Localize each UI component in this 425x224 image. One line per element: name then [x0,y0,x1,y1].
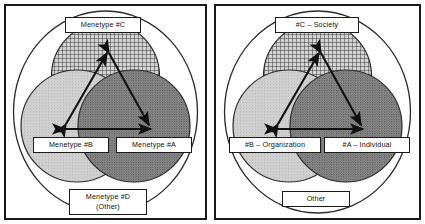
label-menetype-c: Menetype #C [65,17,141,33]
panel-right-named-menetypes: #C – Society #B – Organization #A – Indi… [214,4,421,220]
label-menetype-d-line1: Menetype #D [73,192,143,202]
label-menetype-b: Menetype #B [33,137,109,153]
label-menetype-d-line2: (Other) [73,202,143,212]
label-c-society: #C – Society [275,17,359,33]
label-menetype-a: Menetype #A [116,137,192,153]
diagram-root: Menetype #C Menetype #B Menetype #A Mene… [0,0,425,224]
circle-menetype-a [78,70,190,182]
circle-individual-a [290,70,402,182]
left-panel-graphic [6,6,205,218]
label-b-organization: #B – Organization [229,137,321,153]
right-panel-graphic [216,6,419,218]
panel-left-generic-menetypes: Menetype #C Menetype #B Menetype #A Mene… [4,4,207,220]
label-menetype-d-other: Menetype #D (Other) [69,189,147,215]
label-other: Other [282,191,350,207]
label-a-individual: #A – Individual [324,137,410,153]
